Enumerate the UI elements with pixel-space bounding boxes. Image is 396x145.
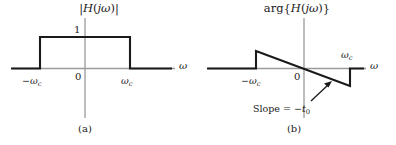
tick-label-positive-cutoff: ωc [121,76,133,88]
annotation-arrowhead-icon [324,81,332,88]
panel-magnitude-response: |H(jω)| 1 0 −ωc ωc ω (a) [0,0,198,145]
origin-label: 0 [75,72,81,82]
annotation-leader-line [311,84,329,101]
magnitude-value-label-one: 1 [74,25,80,35]
tick-label-negative-cutoff: −ωc [22,76,42,88]
panel-caption-a: (a) [65,124,105,134]
phase-axis-title: arg{H(jω)} [198,3,396,15]
panel-phase-response: arg{H(jω)} 0 −ωc ωc ω Slope = −t0 (b) [198,0,396,145]
magnitude-axis-title: |H(jω)| [0,3,198,15]
omega-axis-name: ω [370,61,378,71]
tick-label-positive-cutoff: ωc [341,50,353,62]
figure-frequency-response: |H(jω)| 1 0 −ωc ωc ω (a) arg{H(jω)} [0,0,396,145]
panel-caption-b: (b) [274,124,314,134]
slope-annotation: Slope = −t0 [253,104,310,116]
omega-axis-name: ω [179,61,187,71]
origin-label: 0 [294,72,300,82]
magnitude-curve [11,37,172,69]
tick-label-negative-cutoff: −ωc [241,76,261,88]
